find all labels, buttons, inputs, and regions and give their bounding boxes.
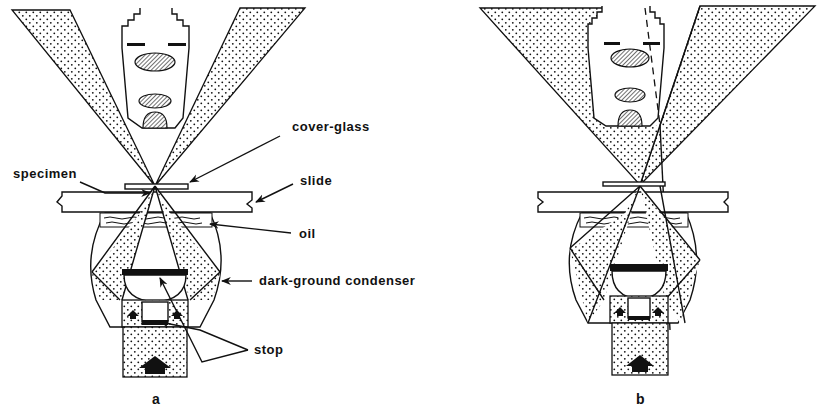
label-slide: slide	[300, 173, 332, 188]
stop-lower-b	[628, 316, 650, 320]
objective-a	[122, 8, 189, 128]
label-specimen: specimen	[13, 166, 77, 181]
dark-ground-illumination-diagram: cover-glass specimen slide oil dark-grou…	[0, 0, 818, 409]
objective-b	[588, 6, 664, 126]
panel-b: b	[480, 6, 815, 407]
stop-upper-a	[122, 269, 188, 275]
label-cover-glass: cover-glass	[292, 119, 370, 134]
panel-a: cover-glass specimen slide oil dark-grou…	[12, 8, 415, 407]
stop-upper-b	[610, 264, 668, 271]
light-cone-right-b	[640, 6, 815, 185]
cover-glass-b	[603, 182, 665, 186]
label-oil: oil	[299, 226, 316, 241]
slide-a	[57, 192, 252, 212]
panel-caption-a: a	[152, 391, 160, 407]
label-stop: stop	[254, 342, 283, 357]
label-dark-ground-condenser: dark-ground condenser	[259, 273, 415, 288]
panel-caption-b: b	[636, 391, 645, 407]
oil-layer-a	[100, 213, 212, 227]
